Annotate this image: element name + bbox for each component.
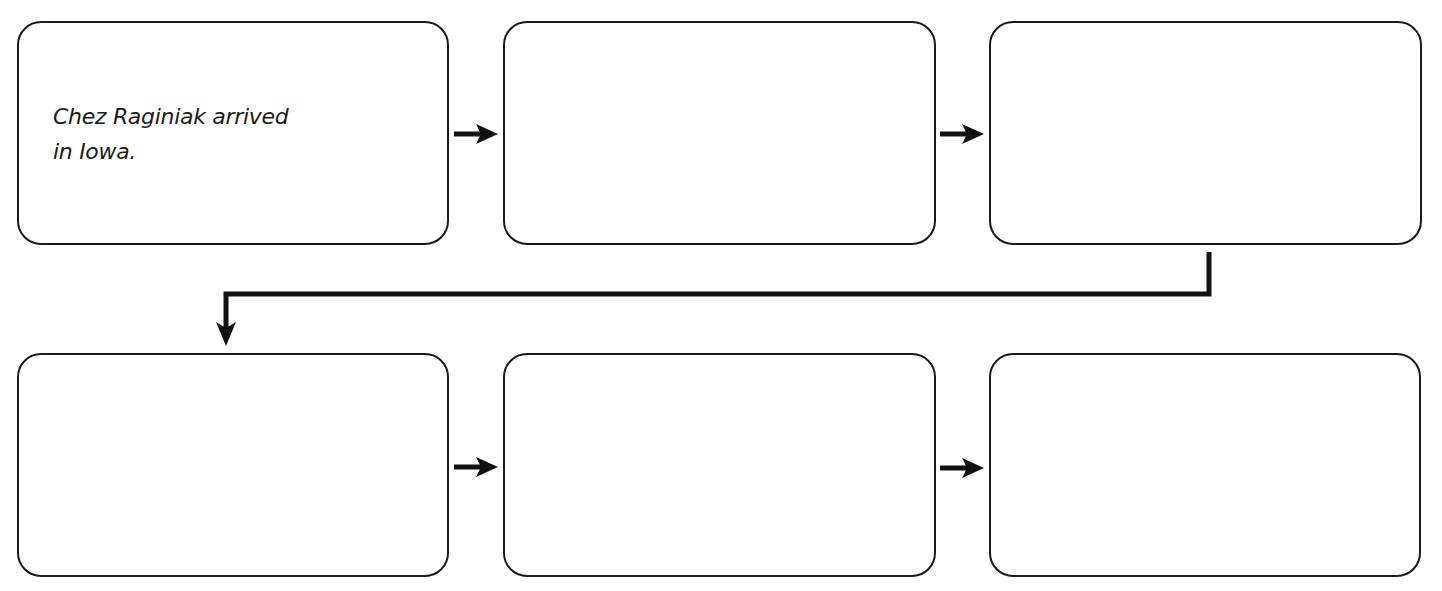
sequence-box-2[interactable] bbox=[503, 21, 936, 245]
sequence-box-6[interactable] bbox=[989, 353, 1421, 577]
arrow-right-icon bbox=[454, 457, 498, 477]
sequence-box-5[interactable] bbox=[503, 353, 936, 577]
arrow-right-icon bbox=[454, 124, 498, 144]
sequence-box-3[interactable] bbox=[989, 21, 1422, 245]
sequence-box-1: Chez Raginiak arrived in Iowa. bbox=[17, 21, 449, 245]
arrow-right-icon bbox=[940, 124, 984, 144]
arrow-right-icon bbox=[940, 458, 984, 478]
sequence-box-4[interactable] bbox=[17, 353, 449, 577]
box-1-text: Chez Raginiak arrived in Iowa. bbox=[53, 99, 288, 169]
connector-arrow-icon bbox=[216, 252, 1209, 346]
